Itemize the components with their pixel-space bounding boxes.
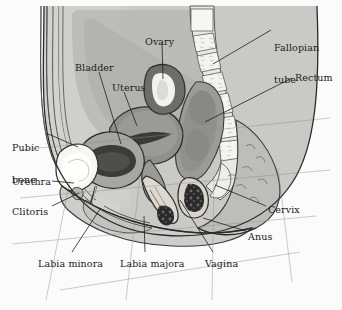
label-pubic-bone-line1: Pubic xyxy=(12,143,39,154)
structure-ovary xyxy=(144,64,185,114)
label-labia-minora: Labia minora xyxy=(38,259,103,270)
label-cervix: Cervix xyxy=(268,205,300,216)
label-bladder: Bladder xyxy=(75,63,114,74)
label-labia-majora: Labia majora xyxy=(120,259,185,270)
label-vagina: Vagina xyxy=(205,259,238,270)
label-ovary: Ovary xyxy=(145,37,174,48)
label-fallopian-tube: Fallopian tube xyxy=(274,22,319,106)
label-rectum: Rectum xyxy=(295,73,333,84)
label-clitoris: Clitoris xyxy=(12,207,48,218)
anatomy-figure: Fallopian tube Ovary Rectum Bladder Uter… xyxy=(0,0,342,310)
label-uterus: Uterus xyxy=(112,83,146,94)
label-pubic-bone: Pubic bone xyxy=(12,122,39,206)
label-anus: Anus xyxy=(248,232,272,243)
label-urethra: Urethra xyxy=(12,177,51,188)
label-fallopian-tube-line1: Fallopian xyxy=(274,43,319,54)
